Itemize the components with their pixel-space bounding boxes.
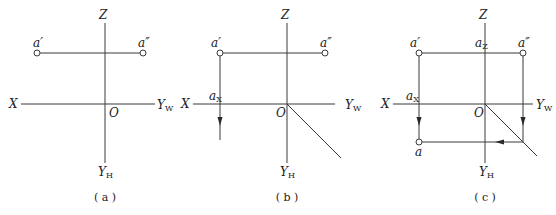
label-a-prime: a′ xyxy=(211,36,221,50)
label-a: a xyxy=(415,145,422,159)
label-origin: O xyxy=(474,106,484,120)
arrow-down-icon xyxy=(218,117,223,126)
45-degree-line xyxy=(485,104,537,156)
label-a-double-prime: a″ xyxy=(518,36,530,50)
label-a-prime: a′ xyxy=(33,36,43,50)
arrow-down-icon xyxy=(521,117,526,126)
label-origin: O xyxy=(109,106,119,120)
label-x: X xyxy=(180,97,190,111)
point-a-double-prime xyxy=(520,50,526,56)
label-origin: O xyxy=(276,106,286,120)
label-x: X xyxy=(8,97,18,111)
45-degree-line xyxy=(287,104,341,158)
label-yh: YH xyxy=(98,165,113,180)
label-az: aZ xyxy=(475,36,488,51)
label-z: Z xyxy=(280,8,290,22)
point-a-prime xyxy=(34,50,40,56)
label-z: Z xyxy=(478,8,488,22)
label-yh: YH xyxy=(280,165,295,180)
panel-b: Z X O YW YH a′ a″ aX ( b ) xyxy=(180,8,362,204)
label-ax: aX xyxy=(406,89,419,104)
point-a-double-prime xyxy=(322,50,328,56)
label-yw: YW xyxy=(345,98,362,113)
caption-b: ( b ) xyxy=(276,191,299,204)
label-a-double-prime: a″ xyxy=(320,36,332,50)
label-z: Z xyxy=(98,8,108,22)
arrow-left-icon xyxy=(495,140,504,145)
label-yw: YW xyxy=(536,98,553,113)
label-yh: YH xyxy=(479,165,494,180)
point-a-prime xyxy=(416,50,422,56)
caption-c: ( c ) xyxy=(474,191,496,204)
label-yw: YW xyxy=(157,98,174,113)
point-a-double-prime xyxy=(140,50,146,56)
point-a-prime xyxy=(217,50,223,56)
label-x: X xyxy=(380,97,390,111)
arrow-down-icon xyxy=(417,117,422,126)
panel-c: Z X O YW YH a′ a″ aX aZ a ( c ) xyxy=(380,8,553,204)
caption-a: ( a ) xyxy=(94,191,116,204)
label-a-double-prime: a″ xyxy=(138,36,150,50)
projection-diagram: Z X O YW YH a′ a″ ( a ) Z X O YW YH a′ a… xyxy=(0,0,556,215)
panel-a: Z X O YW YH a′ a″ ( a ) xyxy=(8,8,174,204)
label-a-prime: a′ xyxy=(410,36,420,50)
